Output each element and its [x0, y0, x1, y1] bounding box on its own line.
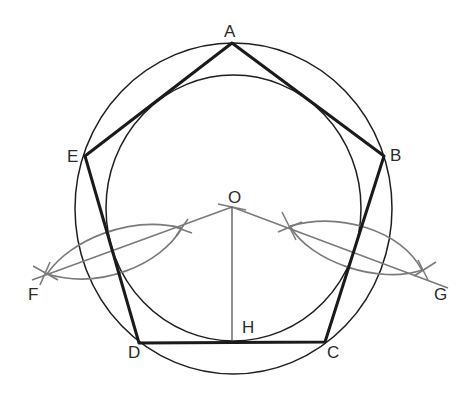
label-A: A — [224, 22, 236, 41]
right-lens-lower-arc — [290, 226, 422, 275]
label-G: G — [434, 285, 447, 304]
label-O: O — [228, 188, 241, 207]
label-H: H — [242, 318, 254, 337]
label-D: D — [128, 343, 140, 362]
label-C: C — [327, 343, 339, 362]
label-E: E — [67, 147, 78, 166]
label-F: F — [28, 285, 38, 304]
circumscribed-circle — [75, 43, 392, 374]
label-B: B — [390, 146, 401, 165]
pentagon-construction-diagram: A B C D E O H F G — [0, 0, 472, 399]
tick-mark-right-upper-2 — [278, 222, 302, 232]
